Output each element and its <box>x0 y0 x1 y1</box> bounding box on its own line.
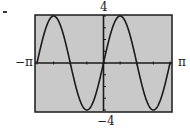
x-max-label: π <box>178 56 186 68</box>
y-max-label: 4 <box>100 1 108 13</box>
y-min-label: −4 <box>97 115 115 127</box>
x-min-label: −π <box>15 56 33 68</box>
